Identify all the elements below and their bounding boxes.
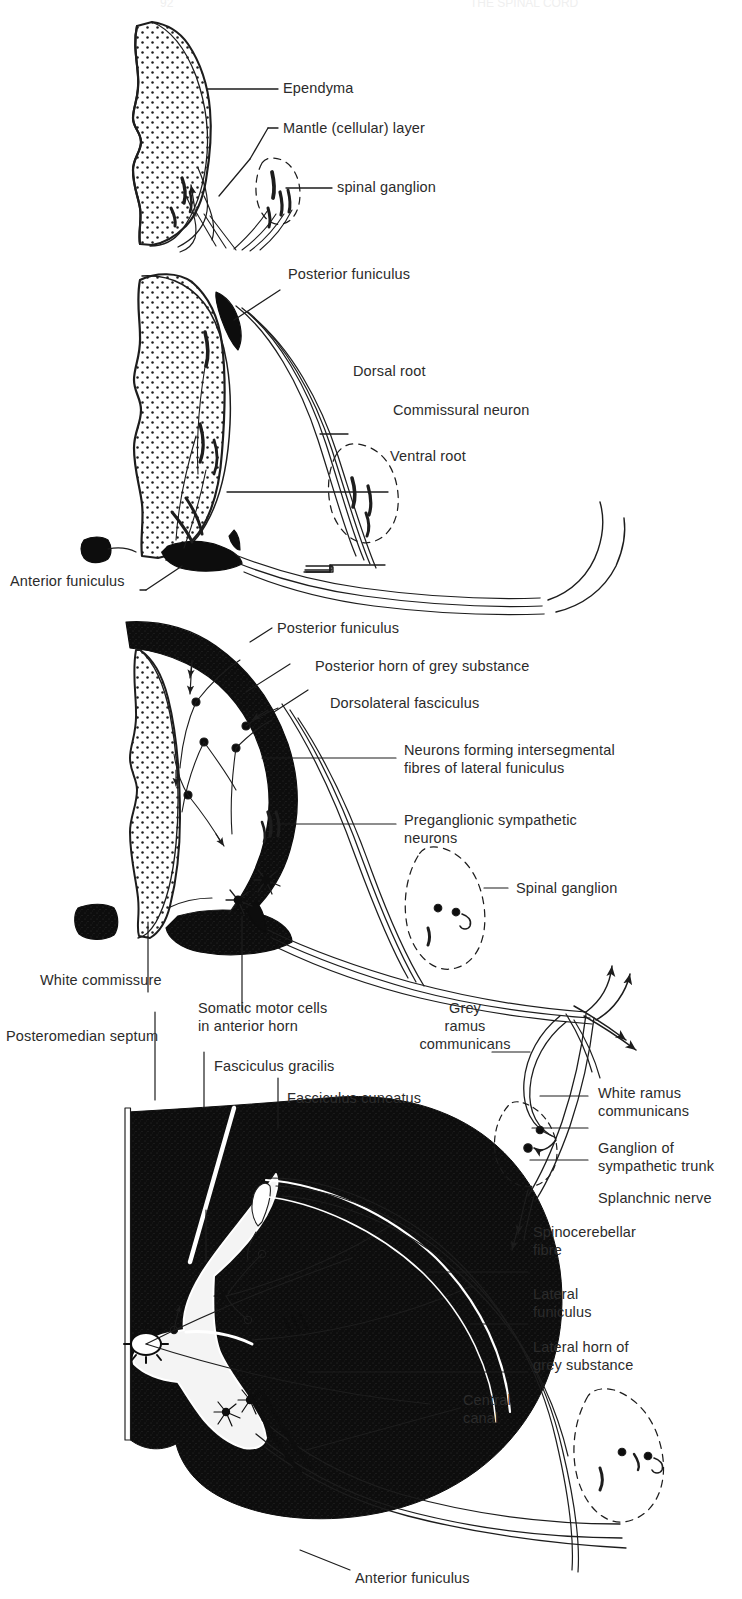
label-grey-ramus-line3: communicans [400, 1036, 530, 1053]
panel-3-drawing [75, 622, 636, 1078]
label-white-ramus-line1: White ramus [598, 1085, 681, 1102]
label-central-canal-line2: canal [463, 1410, 498, 1427]
label-splanchnic-nerve: Splanchnic nerve [598, 1190, 712, 1207]
label-spinal-ganglion-p3: Spinal ganglion [516, 880, 617, 897]
label-ganglion-of-sympathetic-trunk-line2: sympathetic trunk [598, 1158, 714, 1175]
panel-4-drawing [124, 1097, 664, 1573]
label-anterior-funiculus-p4: Anterior funiculus [355, 1570, 470, 1587]
label-white-ramus-line2: communicans [598, 1103, 689, 1120]
label-intersegmental-neurons-line2: fibres of lateral funiculus [404, 760, 564, 777]
label-spinocerebellar-fibre-line1: Spinocerebellar [533, 1224, 636, 1241]
panel-3-leaders [148, 628, 530, 1052]
label-dorsolateral-fasciculus: Dorsolateral fasciculus [330, 695, 479, 712]
label-lateral-horn-line1: Lateral horn of [533, 1339, 629, 1356]
label-posterior-horn-of-grey-substance: Posterior horn of grey substance [315, 658, 529, 675]
label-white-commissure: White commissure [40, 972, 162, 989]
label-intersegmental-neurons-line1: Neurons forming intersegmental [404, 742, 615, 759]
label-posterior-funiculus-p2: Posterior funiculus [288, 266, 410, 283]
label-preganglionic-sympathetic-line1: Preganglionic sympathetic [404, 812, 577, 829]
panel-1-leaders [207, 89, 332, 196]
label-mantle-cellular-layer: Mantle (cellular) layer [283, 120, 425, 137]
label-fasciculus-gracilis: Fasciculus gracilis [214, 1058, 335, 1075]
label-grey-ramus-line2: ramus [400, 1018, 530, 1035]
label-spinal-ganglion-p1: spinal ganglion [337, 179, 436, 196]
anatomical-figure: 92 THE SPINAL CORD [0, 0, 742, 1599]
label-central-canal-line1: Central [463, 1392, 511, 1409]
label-ventral-root: Ventral root [390, 448, 466, 465]
panel-2-drawing [81, 274, 625, 614]
label-lateral-funiculus-line1: Lateral [533, 1286, 578, 1303]
label-commissural-neuron: Commissural neuron [393, 402, 529, 419]
label-lateral-funiculus-line2: funiculus [533, 1304, 592, 1321]
label-preganglionic-sympathetic-line2: neurons [404, 830, 457, 847]
label-fasciculus-cuneatus: Fasciculus cuneatus [287, 1090, 421, 1107]
label-grey-ramus-line1: Grey [400, 1000, 530, 1017]
label-dorsal-root: Dorsal root [353, 363, 426, 380]
label-posterior-funiculus-p3: Posterior funiculus [277, 620, 399, 637]
label-ganglion-of-sympathetic-trunk-line1: Ganglion of [598, 1140, 674, 1157]
label-lateral-horn-line2: grey substance [533, 1357, 633, 1374]
label-spinocerebellar-fibre-line2: fibre [533, 1242, 562, 1259]
panel-1-drawing [133, 22, 300, 252]
label-posteromedian-septum: Posteromedian septum [6, 1028, 158, 1045]
label-somatic-motor-cells-line1: Somatic motor cells [198, 1000, 327, 1017]
label-somatic-motor-cells-line2: in anterior horn [198, 1018, 298, 1035]
label-anterior-funiculus-p2: Anterior funiculus [10, 573, 125, 590]
label-ependyma: Ependyma [283, 80, 354, 97]
